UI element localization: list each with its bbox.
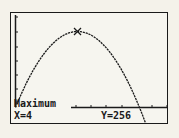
result-label: Maximum (14, 99, 56, 109)
y-readout: Y=256 (101, 111, 131, 121)
x-readout: X=4 (14, 111, 32, 121)
calculator-graph-screen: Maximum X=4 Y=256 (10, 12, 168, 124)
